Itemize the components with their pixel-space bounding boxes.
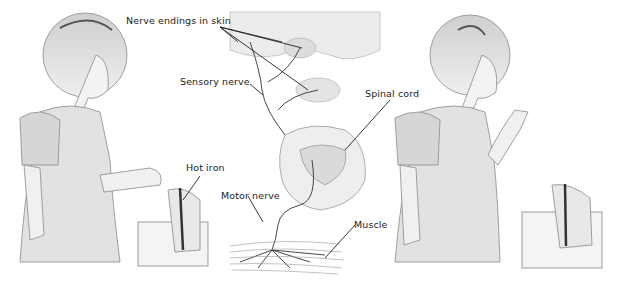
label-muscle: Muscle <box>354 219 387 230</box>
right-girl-figure <box>395 15 528 262</box>
reflex-arc-diagram: Nerve endings in skin Sensory nerve Spin… <box>0 0 625 286</box>
label-nerve-endings: Nerve endings in skin <box>126 15 231 26</box>
diagram-artwork <box>0 0 625 286</box>
spinal-cord-cross-section <box>280 126 366 210</box>
label-sensory-nerve: Sensory nerve <box>180 76 250 87</box>
muscle <box>230 241 344 274</box>
left-hot-iron <box>138 188 208 266</box>
right-hot-iron <box>522 184 602 268</box>
skin-section <box>230 12 380 102</box>
label-hot-iron: Hot iron <box>186 162 225 173</box>
label-motor-nerve: Motor nerve <box>221 190 280 201</box>
label-spinal-cord: Spinal cord <box>365 88 419 99</box>
